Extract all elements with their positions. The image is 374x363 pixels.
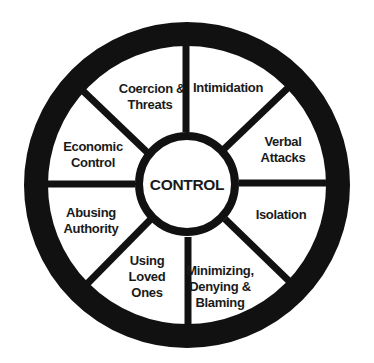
- segment-intimidation: Intimidation: [193, 80, 263, 95]
- segment-abusing-authority: Abusing Authority: [63, 205, 119, 236]
- segment-label-line: Loved: [129, 269, 166, 284]
- segment-isolation: Isolation: [256, 207, 307, 222]
- segment-label-line: Abusing: [66, 205, 116, 220]
- segment-using-loved-ones: Using Loved Ones: [129, 253, 166, 300]
- segment-label-line: Threats: [128, 97, 173, 112]
- segment-label-line: Using: [130, 253, 165, 268]
- segment-label-line: Attacks: [261, 150, 306, 165]
- segment-label-line: Isolation: [256, 207, 307, 222]
- segment-label-line: Control: [71, 155, 115, 170]
- segment-label-line: Minimizing,: [186, 263, 253, 278]
- segment-label-line: Blaming: [195, 295, 245, 310]
- hub-label: CONTROL: [150, 176, 225, 193]
- segment-label-line: Authority: [63, 221, 119, 236]
- segment-minimizing-denying-blaming: Minimizing, Denying & Blaming: [186, 263, 253, 310]
- segment-coercion-threats: Coercion & Threats: [119, 81, 185, 112]
- segment-label-line: Intimidation: [193, 80, 263, 95]
- segment-label-line: Verbal: [264, 134, 301, 149]
- control-wheel-diagram: CONTROL Coercion & Threats Intimidation …: [0, 0, 374, 363]
- segment-verbal-attacks: Verbal Attacks: [261, 134, 306, 165]
- segment-economic-control: Economic Control: [63, 139, 123, 170]
- segment-label-line: Ones: [131, 285, 162, 300]
- segment-label-line: Denying &: [189, 279, 251, 294]
- segment-label-line: Coercion &: [119, 81, 185, 96]
- segment-label-line: Economic: [63, 139, 123, 154]
